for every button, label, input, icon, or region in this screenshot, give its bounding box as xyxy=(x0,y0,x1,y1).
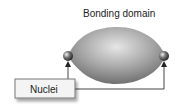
diagram-title: Bonding domain xyxy=(83,8,155,19)
nucleus-right xyxy=(159,51,169,61)
bonding-domain-shape xyxy=(68,27,165,84)
bonding-domain-diagram: Bonding domain Nuclei xyxy=(0,0,179,107)
nuclei-label: Nuclei xyxy=(30,84,58,95)
nucleus-left xyxy=(63,51,73,61)
